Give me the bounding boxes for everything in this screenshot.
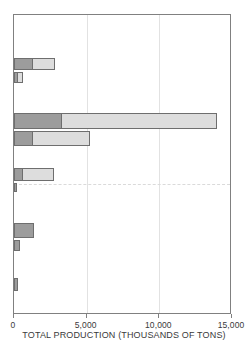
bar-segment-series-1[interactable]	[14, 113, 62, 129]
x-tick-mark-15000	[231, 314, 232, 318]
plot-area	[13, 14, 231, 314]
stacked-bar-g2-b1[interactable]	[14, 113, 217, 129]
bar-segment-series-1[interactable]	[14, 131, 33, 146]
dashed-reference-line	[14, 184, 230, 185]
gridline-vertical-10000	[159, 15, 160, 313]
x-tick-mark-5000	[86, 314, 87, 318]
bar-segment-series-1[interactable]	[14, 183, 17, 192]
stacked-bar-g5-b1[interactable]	[14, 278, 18, 291]
x-tick-label-15000: 15,000	[218, 321, 245, 330]
bar-segment-series-2[interactable]	[61, 113, 218, 129]
stacked-bar-g4-b2[interactable]	[14, 240, 20, 251]
stacked-bar-g4-b1[interactable]	[14, 223, 34, 238]
bar-segment-series-2[interactable]	[32, 58, 55, 70]
bar-segment-series-1[interactable]	[14, 240, 20, 251]
stacked-bar-g3-b2[interactable]	[14, 183, 17, 192]
x-tick-label-5000: 5,000	[75, 321, 97, 330]
bar-segment-series-2[interactable]	[17, 72, 22, 83]
bar-segment-series-2[interactable]	[32, 131, 90, 146]
x-tick-mark-10000	[158, 314, 159, 318]
x-tick-label-0: 0	[11, 321, 16, 330]
x-tick-mark-0	[13, 314, 14, 318]
stacked-bar-g3-b1[interactable]	[14, 168, 54, 181]
x-axis-title: TOTAL PRODUCTION (THOUSANDS OF TONS)	[0, 331, 248, 340]
bar-segment-series-2[interactable]	[22, 168, 54, 181]
gridline-vertical-5000	[87, 15, 88, 313]
bar-segment-series-1[interactable]	[14, 58, 33, 70]
stacked-bar-g1-b1[interactable]	[14, 58, 55, 70]
stacked-bar-g1-b2[interactable]	[14, 72, 23, 83]
bar-segment-series-1[interactable]	[14, 278, 18, 291]
bar-segment-series-1[interactable]	[14, 223, 34, 238]
stacked-bar-g2-b2[interactable]	[14, 131, 90, 146]
horizontal-stacked-bar-chart: TOTAL PRODUCTION (THOUSANDS OF TONS) 05,…	[0, 0, 248, 350]
x-tick-label-10000: 10,000	[145, 321, 172, 330]
